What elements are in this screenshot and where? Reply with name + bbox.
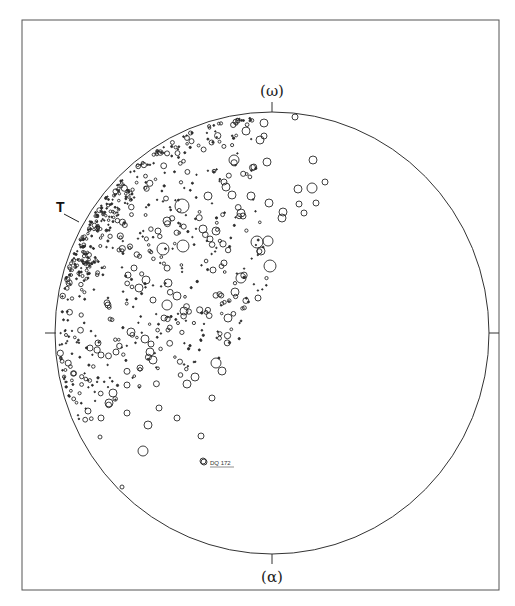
data-point (99, 237, 102, 240)
data-point (193, 244, 195, 246)
data-point (141, 293, 143, 295)
data-point (135, 342, 137, 344)
data-point (223, 271, 226, 274)
data-point (80, 271, 82, 273)
data-point (301, 210, 307, 216)
data-point (75, 401, 78, 404)
data-point (215, 217, 217, 219)
data-point (79, 244, 81, 246)
data-point (251, 138, 252, 139)
data-point (196, 215, 202, 221)
data-point (184, 152, 186, 154)
data-point (152, 285, 154, 287)
data-point (155, 228, 161, 234)
data-point (121, 347, 122, 348)
data-point (260, 119, 268, 127)
data-point (112, 221, 114, 223)
data-point (122, 252, 124, 254)
data-point (64, 333, 67, 336)
data-point (105, 214, 107, 216)
data-point (57, 350, 63, 356)
annotation-label: DQ 172 (210, 460, 231, 466)
data-point (83, 291, 86, 294)
data-point (64, 376, 65, 377)
data-point (182, 159, 186, 163)
top-pole-label: (ω) (260, 82, 284, 100)
data-point (185, 169, 190, 174)
data-point (245, 123, 249, 127)
data-point (163, 185, 165, 187)
data-point (309, 156, 317, 164)
data-point (112, 216, 115, 219)
data-point (108, 234, 112, 238)
data-point (82, 245, 83, 246)
data-point (102, 274, 104, 276)
data-point (135, 298, 137, 300)
data-point (83, 280, 85, 282)
data-point (262, 246, 264, 248)
data-point (177, 199, 179, 201)
data-point (218, 332, 222, 336)
data-point (77, 415, 78, 416)
data-point (144, 214, 147, 217)
data-point (198, 210, 201, 213)
data-point (77, 339, 79, 341)
data-point (118, 199, 121, 202)
data-point (68, 274, 70, 276)
data-point (196, 280, 198, 282)
data-point (213, 124, 215, 126)
data-point (186, 135, 187, 136)
data-point (159, 347, 163, 351)
data-point (93, 289, 95, 291)
data-point (201, 329, 203, 331)
data-point (211, 358, 221, 368)
data-point (165, 151, 170, 156)
data-point (256, 136, 264, 144)
data-point (72, 259, 74, 261)
data-point (154, 352, 155, 353)
data-point (207, 269, 209, 271)
data-point (243, 120, 245, 122)
data-point (218, 336, 222, 340)
data-point (156, 367, 159, 370)
data-point (163, 147, 164, 148)
data-point (103, 381, 105, 383)
data-point (144, 283, 146, 285)
data-point (144, 421, 152, 429)
data-point (252, 199, 254, 201)
data-point (181, 224, 186, 229)
data-point (59, 344, 60, 345)
data-point (71, 353, 73, 355)
data-point (237, 153, 238, 154)
data-point (120, 180, 122, 182)
data-point (125, 275, 127, 277)
data-point (198, 433, 204, 439)
data-point (152, 236, 154, 238)
data-point (215, 221, 218, 224)
data-point (78, 342, 79, 343)
data-point (87, 277, 89, 279)
data-point (92, 247, 94, 249)
data-point (150, 297, 156, 303)
data-point (201, 312, 203, 314)
data-point (177, 313, 178, 314)
data-point (78, 392, 81, 395)
data-point (220, 312, 223, 315)
data-point (294, 185, 302, 193)
data-point (181, 268, 182, 269)
data-point (85, 269, 88, 272)
data-point (248, 175, 252, 179)
data-point (87, 273, 89, 275)
data-point (141, 332, 143, 334)
data-point (89, 417, 93, 421)
data-point (238, 338, 240, 340)
data-point (201, 147, 206, 152)
data-point (65, 360, 71, 366)
data-point (61, 311, 63, 313)
data-point (94, 347, 100, 353)
data-point (130, 213, 134, 217)
data-point (175, 151, 180, 156)
data-point (63, 319, 65, 321)
data-point (180, 223, 181, 224)
data-point (178, 222, 180, 224)
